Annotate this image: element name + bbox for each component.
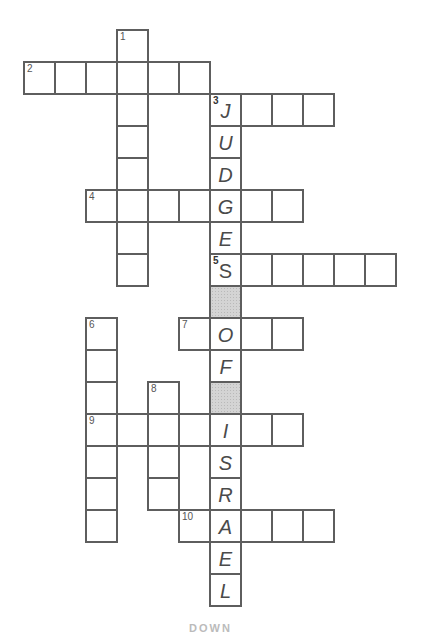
crossword-cell[interactable] — [302, 93, 335, 127]
clue-number: 7 — [182, 320, 188, 330]
crossword-cell[interactable] — [240, 317, 273, 351]
crossword-cell[interactable] — [116, 221, 149, 255]
clue-number: 2 — [27, 64, 33, 74]
crossword-cell[interactable] — [271, 509, 304, 543]
crossword-cell[interactable] — [240, 189, 273, 223]
crossword-cell[interactable] — [333, 253, 366, 287]
crossword-cell[interactable] — [85, 509, 118, 543]
crossword-cell[interactable]: R — [209, 477, 242, 511]
crossword-cell[interactable] — [147, 445, 180, 479]
cell-letter: G — [211, 194, 240, 220]
cell-letter: S — [211, 450, 240, 476]
crossword-cell[interactable] — [302, 253, 335, 287]
cell-letter: L — [211, 578, 240, 604]
crossword-cell[interactable]: L — [209, 573, 242, 607]
crossword-cell[interactable] — [116, 125, 149, 159]
crossword-cell[interactable] — [271, 253, 304, 287]
crossword-cell[interactable] — [147, 189, 180, 223]
crossword-cell[interactable]: 9 — [85, 413, 118, 447]
cell-letter: R — [211, 482, 240, 508]
crossword-cell[interactable]: 3J — [209, 93, 242, 127]
crossword-cell[interactable] — [240, 509, 273, 543]
crossword-cell[interactable] — [364, 253, 397, 287]
crossword-cell[interactable] — [147, 477, 180, 511]
cell-letter: F — [211, 354, 240, 380]
clue-number: 1 — [120, 32, 126, 42]
crossword-cell[interactable] — [271, 189, 304, 223]
cell-letter: E — [211, 546, 240, 572]
shaded-cell — [209, 285, 242, 319]
cell-letter: S — [211, 258, 240, 284]
cell-letter: D — [211, 162, 240, 188]
crossword-cell[interactable] — [116, 189, 149, 223]
crossword-cell[interactable]: E — [209, 541, 242, 575]
crossword-cell[interactable] — [147, 413, 180, 447]
crossword-cell[interactable] — [85, 349, 118, 383]
crossword-cell[interactable] — [302, 509, 335, 543]
crossword-cell[interactable]: U — [209, 125, 242, 159]
crossword-cell[interactable] — [240, 93, 273, 127]
crossword-cell[interactable] — [147, 61, 180, 95]
shaded-cell — [209, 381, 242, 415]
down-clues-heading: DOWN — [0, 622, 421, 632]
crossword-cell[interactable] — [178, 189, 211, 223]
crossword-cell[interactable]: 7 — [178, 317, 211, 351]
crossword-cell[interactable] — [178, 61, 211, 95]
crossword-cell[interactable] — [116, 61, 149, 95]
crossword-cell[interactable] — [85, 381, 118, 415]
crossword-cell[interactable]: 1 — [116, 29, 149, 63]
crossword-cell[interactable] — [240, 253, 273, 287]
cell-letter: J — [211, 98, 240, 124]
clue-number: 4 — [89, 192, 95, 202]
crossword-cell[interactable]: G — [209, 189, 242, 223]
clue-number: 9 — [89, 416, 95, 426]
crossword-cell[interactable]: 10 — [178, 509, 211, 543]
crossword-cell[interactable] — [240, 413, 273, 447]
crossword-cell[interactable] — [116, 413, 149, 447]
crossword-cell[interactable] — [116, 253, 149, 287]
crossword-cell[interactable] — [271, 317, 304, 351]
crossword-cell[interactable] — [116, 157, 149, 191]
crossword-cell[interactable]: S — [209, 445, 242, 479]
crossword-cell[interactable] — [178, 413, 211, 447]
crossword-cell[interactable] — [85, 477, 118, 511]
crossword-cell[interactable] — [271, 93, 304, 127]
crossword-cell[interactable]: 6 — [85, 317, 118, 351]
crossword-cell[interactable] — [54, 61, 87, 95]
crossword-cell[interactable]: I — [209, 413, 242, 447]
crossword-cell[interactable] — [116, 93, 149, 127]
crossword-cell[interactable]: 2 — [23, 61, 56, 95]
crossword-cell[interactable] — [271, 413, 304, 447]
cell-letter: E — [211, 226, 240, 252]
crossword-cell[interactable]: A — [209, 509, 242, 543]
cell-letter: I — [211, 418, 240, 444]
clue-number: 10 — [182, 512, 193, 522]
clue-number: 8 — [151, 384, 157, 394]
cell-letter: U — [211, 130, 240, 156]
crossword-cell[interactable] — [85, 61, 118, 95]
crossword-cell[interactable]: D — [209, 157, 242, 191]
crossword-cell[interactable]: O — [209, 317, 242, 351]
cell-letter: A — [211, 514, 240, 540]
clue-number: 6 — [89, 320, 95, 330]
crossword-cell[interactable]: 5S — [209, 253, 242, 287]
crossword-cell[interactable]: F — [209, 349, 242, 383]
cell-letter: O — [211, 322, 240, 348]
crossword-cell[interactable]: 4 — [85, 189, 118, 223]
crossword-cell[interactable] — [85, 445, 118, 479]
crossword-cell[interactable]: E — [209, 221, 242, 255]
crossword-grid: 123J4G5S697O8I10AUDEFSREL — [0, 0, 421, 632]
crossword-cell[interactable]: 8 — [147, 381, 180, 415]
